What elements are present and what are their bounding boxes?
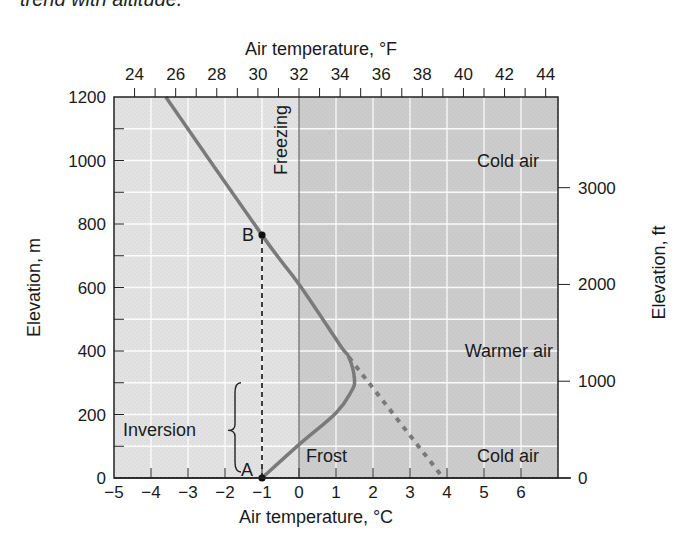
tick-label-meters: 800 bbox=[78, 215, 106, 234]
tick-label-fahrenheit: 36 bbox=[372, 65, 391, 84]
tick-label-feet: 2000 bbox=[578, 275, 616, 294]
annotation-freezing: Freezing bbox=[271, 105, 291, 175]
tick-label-celsius: −1 bbox=[252, 483, 271, 502]
tick-label-meters: 0 bbox=[97, 469, 106, 488]
label-point-b: B bbox=[242, 225, 254, 245]
tick-label-fahrenheit: 32 bbox=[290, 65, 309, 84]
annotation-inversion: Inversion bbox=[123, 420, 196, 440]
tick-label-meters: 400 bbox=[78, 342, 106, 361]
tick-label-meters: 200 bbox=[78, 406, 106, 425]
tick-label-meters: 600 bbox=[78, 279, 106, 298]
tick-label-feet: 1000 bbox=[578, 372, 616, 391]
tick-label-celsius: −2 bbox=[215, 483, 234, 502]
tick-label-celsius: −3 bbox=[178, 483, 197, 502]
tick-label-celsius: 4 bbox=[442, 483, 451, 502]
tick-label-meters: 1000 bbox=[68, 152, 106, 171]
tick-label-fahrenheit: 38 bbox=[413, 65, 432, 84]
annotation-cold-air: Cold air bbox=[477, 151, 539, 171]
tick-label-fahrenheit: 26 bbox=[166, 65, 185, 84]
tick-label-fahrenheit: 30 bbox=[248, 65, 267, 84]
tick-label-celsius: 5 bbox=[479, 483, 488, 502]
point-b bbox=[258, 232, 265, 239]
tick-label-fahrenheit: 34 bbox=[331, 65, 350, 84]
tick-label-celsius: 1 bbox=[331, 483, 340, 502]
annotation-warmer-air: Warmer air bbox=[465, 341, 553, 361]
tick-label-fahrenheit: 24 bbox=[125, 65, 144, 84]
tick-label-celsius: 6 bbox=[516, 483, 525, 502]
tick-label-fahrenheit: 44 bbox=[536, 65, 555, 84]
tick-label-celsius: 2 bbox=[368, 483, 377, 502]
tick-label-fahrenheit: 42 bbox=[495, 65, 514, 84]
annotation-cold-air: Cold air bbox=[477, 446, 539, 466]
x2-axis-title: Air temperature, °F bbox=[245, 39, 397, 59]
tick-label-celsius: 0 bbox=[294, 483, 303, 502]
y2-axis-title: Elevation, ft bbox=[649, 225, 669, 319]
tick-label-feet: 0 bbox=[578, 469, 587, 488]
tick-label-celsius: −4 bbox=[141, 483, 160, 502]
label-point-a: A bbox=[241, 460, 253, 480]
tick-label-fahrenheit: 40 bbox=[454, 65, 473, 84]
tick-label-celsius: 3 bbox=[405, 483, 414, 502]
tick-label-meters: 1200 bbox=[68, 88, 106, 107]
tick-label-fahrenheit: 28 bbox=[207, 65, 226, 84]
y-axis-title: Elevation, m bbox=[24, 238, 44, 337]
temperature-inversion-chart: −5−4−3−2−10123456Air temperature, °C2426… bbox=[0, 0, 691, 546]
tick-label-feet: 3000 bbox=[578, 179, 616, 198]
tick-label-celsius: −5 bbox=[104, 483, 123, 502]
x-axis-title: Air temperature, °C bbox=[239, 507, 393, 527]
annotation-frost: Frost bbox=[306, 446, 347, 466]
